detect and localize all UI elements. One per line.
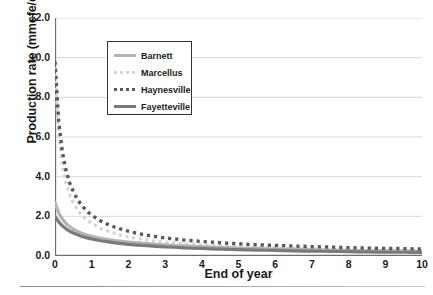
legend-label: Barnett [141, 51, 173, 61]
y-axis-tick-label: 10.0 [16, 51, 50, 63]
legend-swatch-fayetteville-icon [114, 102, 136, 112]
legend-label: Fayetteville [141, 102, 190, 112]
legend-swatch-haynesville-icon [114, 85, 136, 95]
bottom-divider [20, 286, 425, 287]
legend-item-haynesville[interactable]: Haynesville [114, 81, 191, 98]
y-axis-tick-label: 6.0 [16, 130, 50, 142]
production-decline-chart: Production rate (mmcfe/d) 0.02.04.06.08.… [0, 0, 433, 295]
legend-item-barnett[interactable]: Barnett [114, 47, 191, 64]
y-axis-tick-label: 8.0 [16, 90, 50, 102]
legend-item-marcellus[interactable]: Marcellus [114, 64, 191, 81]
y-axis-tick-label: 12.0 [16, 11, 50, 23]
legend-item-fayetteville[interactable]: Fayetteville [114, 98, 191, 115]
y-axis-tick-label: 2.0 [16, 209, 50, 221]
y-axis-tick-label: 4.0 [16, 170, 50, 182]
chart-legend: BarnettMarcellusHaynesvilleFayetteville [107, 41, 192, 115]
series-line-barnett [55, 202, 422, 251]
y-axis-tick-labels: 0.02.04.06.08.010.012.0 [10, 0, 50, 295]
x-axis-title: End of year [55, 267, 422, 281]
legend-swatch-marcellus-icon [114, 68, 136, 78]
legend-label: Marcellus [141, 68, 183, 78]
legend-swatch-barnett-icon [114, 51, 136, 61]
legend-label: Haynesville [141, 85, 191, 95]
